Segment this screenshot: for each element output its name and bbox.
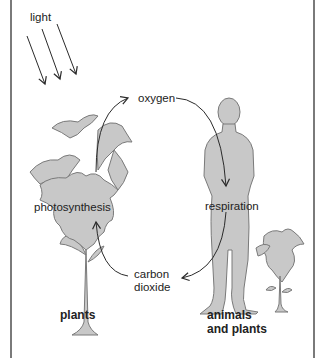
label-respiration: respiration [205,200,259,213]
label-oxygen: oxygen [138,92,175,105]
caption-and-plants: and plants [207,323,267,336]
caption-animals: animals [207,309,252,322]
label-carbon: carbon [134,268,169,281]
label-dioxide: dioxide [134,281,170,294]
light-rays-icon [27,24,76,84]
label-light: light [30,11,51,24]
plant-icon [30,115,132,335]
caption-plants: plants [60,309,95,322]
small-plant-icon [256,229,304,312]
label-photosynthesis: photosynthesis [34,201,111,214]
